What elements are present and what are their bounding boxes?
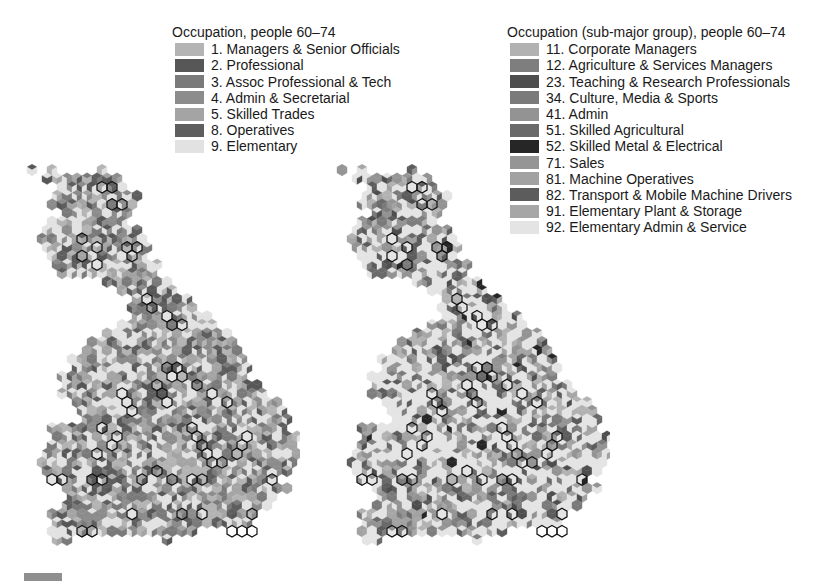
hex-map-occupation — [0, 160, 300, 580]
legend-swatch — [175, 140, 204, 153]
legend-swatch — [510, 75, 539, 88]
legend-swatch — [510, 124, 539, 137]
legend-label: 51. Skilled Agricultural — [546, 122, 684, 138]
city-boundary — [547, 525, 557, 537]
legend-item: 4. Admin & Secretarial — [172, 90, 400, 106]
legend-item: 34. Culture, Media & Sports — [507, 90, 792, 106]
legend-items: 1. Managers & Senior Officials2. Profess… — [172, 41, 400, 154]
legend-item: 11. Corporate Managers — [507, 41, 792, 57]
legend-title: Occupation, people 60–74 — [172, 24, 400, 40]
legend-item: 8. Operatives — [172, 122, 400, 138]
legend-swatch — [510, 59, 539, 72]
legend-item: 12. Agriculture & Services Managers — [507, 57, 792, 73]
legend-swatch — [175, 59, 204, 72]
hex-map-occupation-sub-major — [310, 160, 610, 580]
legend-swatch — [175, 43, 204, 56]
legend-label: 8. Operatives — [211, 122, 294, 138]
legend-label: 41. Admin — [546, 106, 608, 122]
legend-item: 9. Elementary — [172, 138, 400, 154]
legend-label: 9. Elementary — [211, 138, 297, 154]
legend-swatch — [175, 91, 204, 104]
legend-label: 34. Culture, Media & Sports — [546, 90, 718, 106]
legend-swatch — [510, 108, 539, 121]
legend-label: 2. Professional — [211, 57, 304, 73]
legend-item: 1. Managers & Senior Officials — [172, 41, 400, 57]
legend-item: 5. Skilled Trades — [172, 106, 400, 122]
city-boundary — [227, 525, 237, 537]
legend-item: 3. Assoc Professional & Tech — [172, 74, 400, 90]
legend-label: 12. Agriculture & Services Managers — [546, 57, 772, 73]
legend-label: 1. Managers & Senior Officials — [211, 41, 400, 57]
legend-label: 23. Teaching & Research Professionals — [546, 74, 790, 90]
legend-item: 41. Admin — [507, 106, 792, 122]
city-boundary — [237, 525, 247, 537]
legend-item: 51. Skilled Agricultural — [507, 122, 792, 138]
city-boundary — [537, 525, 547, 537]
legend-title: Occupation (sub-major group), people 60–… — [507, 24, 792, 40]
legend-item: 2. Professional — [172, 57, 400, 73]
legend-swatch — [175, 75, 204, 88]
legend-occupation: Occupation, people 60–74 1. Managers & S… — [172, 24, 400, 155]
legend-swatch — [510, 91, 539, 104]
city-boundary — [557, 525, 567, 537]
legend-swatch — [510, 140, 539, 153]
legend-label: 52. Skilled Metal & Electrical — [546, 138, 723, 154]
legend-item: 52. Skilled Metal & Electrical — [507, 138, 792, 154]
legend-label: 11. Corporate Managers — [546, 41, 697, 57]
legend-swatch — [175, 108, 204, 121]
legend-label: 3. Assoc Professional & Tech — [211, 74, 391, 90]
city-boundary — [247, 525, 257, 537]
legend-label: 4. Admin & Secretarial — [211, 90, 350, 106]
scale-bar — [24, 573, 62, 581]
legend-swatch — [175, 124, 204, 137]
legend-label: 5. Skilled Trades — [211, 106, 315, 122]
legend-swatch — [510, 43, 539, 56]
legend-item: 23. Teaching & Research Professionals — [507, 74, 792, 90]
